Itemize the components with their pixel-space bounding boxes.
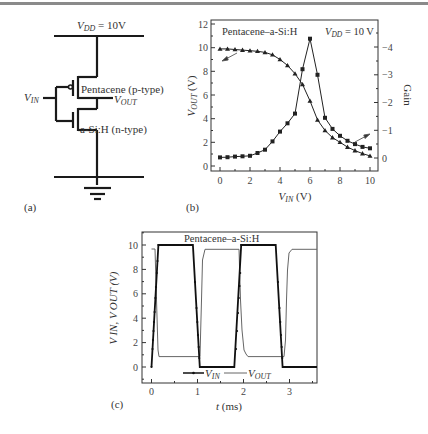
chart-b-annotation-left: Pentacene–a-Si:H — [222, 26, 298, 37]
svg-text:6: 6 — [133, 288, 138, 299]
svg-text:2: 2 — [203, 137, 208, 148]
svg-text:12: 12 — [198, 19, 208, 30]
chart-c-ylabel: V IN, V OUT (V) — [107, 271, 120, 344]
vin-trace — [152, 245, 318, 367]
svg-text:0: 0 — [133, 362, 138, 373]
chart-c-xlabel: t (ms) — [216, 400, 242, 413]
panel-a-label: (a) — [24, 201, 37, 214]
svg-text:−2: −2 — [382, 97, 393, 108]
chart-b-ylabel: VOUT (V) — [185, 75, 199, 116]
figure: VDD = 10V Pentacene (p-type) a-Si:H (n-t… — [0, 0, 428, 434]
chart-b: 024 6810 024 6810 12 0−1−2 −3−4 — [185, 19, 414, 215]
svg-text:2: 2 — [133, 337, 138, 348]
chart-c: 01 23 024 6810 — [107, 232, 317, 413]
svg-text:−3: −3 — [382, 69, 393, 80]
chart-c-ytick-labels: 024 6810 — [128, 240, 138, 373]
chart-c-annotation: Pentacene–a-Si:H — [184, 233, 260, 244]
svg-text:0: 0 — [203, 161, 208, 172]
chart-c-xtick-labels: 01 23 — [149, 386, 292, 397]
svg-text:3: 3 — [287, 386, 292, 397]
svg-text:0: 0 — [149, 386, 154, 397]
chart-b-xtick-labels: 024 6810 — [218, 175, 376, 186]
chart-b-frame — [211, 20, 378, 171]
legend-vin-label: VIN — [205, 367, 220, 381]
chart-b-xlabel: VIN (V) — [279, 190, 312, 204]
chart-b-y2label: Gain — [402, 84, 414, 106]
svg-text:10: 10 — [365, 175, 375, 186]
axis-arrows — [222, 53, 370, 142]
chart-c-legend: VIN VOUT — [183, 367, 271, 381]
svg-text:−4: −4 — [382, 42, 393, 53]
circuit-diagram — [43, 36, 144, 199]
chart-b-ytick-labels: 024 6810 12 — [198, 19, 208, 172]
svg-text:0: 0 — [218, 175, 223, 186]
vin-markers — [150, 244, 315, 368]
svg-text:1: 1 — [195, 386, 200, 397]
ntype-label: a-Si:H (n-type) — [80, 123, 147, 136]
vdd-label: VDD = 10V — [77, 19, 126, 33]
svg-text:10: 10 — [198, 42, 208, 53]
svg-text:0: 0 — [382, 153, 387, 164]
svg-text:2: 2 — [248, 175, 253, 186]
svg-text:−1: −1 — [382, 125, 393, 136]
svg-text:8: 8 — [338, 175, 343, 186]
ptype-label: Pentacene (p-type) — [81, 83, 164, 96]
chart-b-y2tick-labels: 0−1−2 −3−4 — [382, 42, 393, 164]
svg-text:6: 6 — [308, 175, 313, 186]
svg-text:4: 4 — [133, 313, 138, 324]
vout-trace — [152, 249, 318, 357]
svg-text:4: 4 — [278, 175, 283, 186]
ptype-gate-bubble — [69, 85, 73, 89]
svg-text:6: 6 — [203, 90, 208, 101]
svg-text:8: 8 — [203, 66, 208, 77]
panel-c-label: (c) — [111, 398, 124, 411]
legend-vout-label: VOUT — [248, 367, 271, 381]
svg-text:4: 4 — [203, 113, 208, 124]
vout-label: VOUT — [114, 93, 137, 107]
chart-b-ticks — [211, 24, 378, 171]
svg-text:2: 2 — [241, 386, 246, 397]
chart-b-annotation-vdd: VDD = 10 V — [325, 26, 374, 39]
vin-label: VIN — [24, 91, 39, 105]
chart-c-frame — [142, 232, 317, 383]
chart-c-ticks — [142, 233, 313, 383]
svg-text:8: 8 — [133, 264, 138, 275]
panel-b-label: (b) — [186, 201, 199, 214]
svg-text:10: 10 — [128, 240, 138, 251]
gain-markers — [218, 37, 372, 160]
